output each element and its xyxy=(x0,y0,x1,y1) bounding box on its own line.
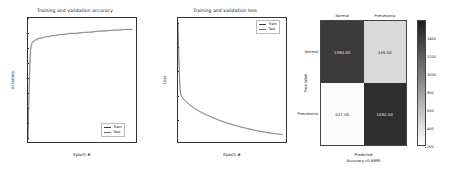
cm-cell-pneumonia-pneumonia: 1592.00 xyxy=(364,83,407,145)
matplotlib-figure: Training and validation accuracy 0.500.5… xyxy=(0,0,449,173)
legend-line-swatch xyxy=(104,127,111,128)
accuracy-y-axis-label: Accuracy xyxy=(10,71,15,90)
cm-accuracy-annotation: Accuracy=0.8995 xyxy=(320,158,407,163)
colorbar-tick-label: 400 xyxy=(427,127,434,131)
loss-chart-panel: Training and validation loss 23456 05010… xyxy=(150,0,300,173)
accuracy-x-axis-label: Epoch # xyxy=(27,152,137,157)
legend-item-test: Test xyxy=(259,28,276,32)
colorbar-tick-label: 800 xyxy=(427,91,434,95)
accuracy-legend: Train Test xyxy=(101,123,125,137)
cm-x-axis-label: Predicted xyxy=(320,152,407,157)
accuracy-chart-panel: Training and validation accuracy 0.500.5… xyxy=(0,0,150,173)
legend-item-test: Test xyxy=(104,131,121,135)
legend-item-train: Train xyxy=(259,23,276,27)
loss-test-line xyxy=(178,23,283,135)
legend-label: Test xyxy=(268,28,275,32)
loss-series-svg xyxy=(178,18,286,142)
loss-legend: Train Test xyxy=(256,20,280,34)
loss-train-line xyxy=(178,22,283,135)
colorbar-tick-label: 1200 xyxy=(427,55,436,59)
cm-cell-value: 247.00 xyxy=(335,112,349,117)
legend-line-swatch xyxy=(104,132,111,133)
cm-cell-value: 1592.00 xyxy=(377,112,393,117)
colorbar-tick-label: 600 xyxy=(427,109,434,113)
colorbar-tick-label: 1400 xyxy=(427,37,436,41)
cm-row-label-normal: Normal xyxy=(305,50,319,54)
cm-column-label-normal: Normal xyxy=(335,14,349,18)
legend-item-train: Train xyxy=(104,126,121,130)
colorbar-tick-label: 200 xyxy=(427,145,434,149)
loss-y-axis-label: Loss xyxy=(162,76,167,85)
confusion-matrix-panel: 1390.00 Normal Normal 339.00 Pneumonia 2… xyxy=(300,0,449,173)
legend-label: Train xyxy=(268,23,276,27)
cm-cell-normal-normal: 1390.00 Normal Normal xyxy=(321,21,364,83)
cm-y-axis-label: True label xyxy=(303,74,308,92)
confusion-matrix-grid: 1390.00 Normal Normal 339.00 Pneumonia 2… xyxy=(320,20,407,146)
loss-chart-title: Training and validation loss xyxy=(150,8,300,13)
cm-column-label-pneumonia: Pneumonia xyxy=(374,14,395,18)
legend-line-swatch xyxy=(259,29,266,30)
cm-cell-normal-pneumonia: 339.00 Pneumonia xyxy=(364,21,407,83)
accuracy-chart-title: Training and validation accuracy xyxy=(0,8,150,13)
cm-cell-value: 1390.00 xyxy=(334,50,350,55)
cm-cell-value: 339.00 xyxy=(378,50,392,55)
legend-line-swatch xyxy=(259,24,266,25)
legend-label: Train xyxy=(113,126,121,130)
colorbar: 140012001000800600400200 xyxy=(417,20,426,146)
cm-cell-pneumonia-normal: 247.00 Pneumonia xyxy=(321,83,364,145)
cm-row-label-pneumonia: Pneumonia xyxy=(297,112,318,116)
colorbar-tick-label: 1000 xyxy=(427,73,436,77)
loss-plot-area: 23456 050100150200250300 xyxy=(177,17,287,143)
legend-label: Test xyxy=(113,131,120,135)
loss-x-axis-label: Epoch # xyxy=(177,152,287,157)
